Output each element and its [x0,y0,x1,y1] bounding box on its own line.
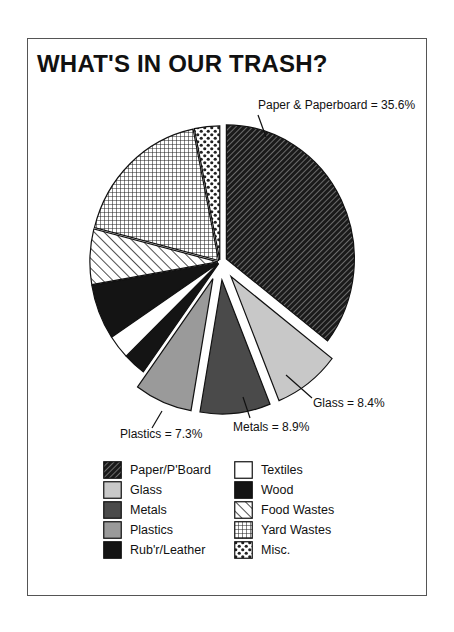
legend-swatch-yard-wastes [234,521,253,539]
legend-item-food-wastes: Food Wastes [234,501,334,519]
legend-item-yard-wastes: Yard Wastes [234,521,331,539]
legend-item-rub-r-leather: Rub'r/Leather [103,541,205,559]
legend-label: Misc. [261,543,290,557]
legend-label: Textiles [261,463,303,477]
legend-label: Yard Wastes [261,523,331,537]
legend-item-misc: Misc. [234,541,290,559]
legend-swatch-paper-p-board [103,461,122,479]
legend-swatch-textiles [234,461,253,479]
legend-label: Rub'r/Leather [130,543,205,557]
legend-label: Metals [130,503,167,517]
data-label-paper-p-board: Paper & Paperboard = 35.6% [258,98,415,112]
data-label-plastics: Plastics = 7.3% [120,427,203,441]
legend-swatch-plastics [103,521,122,539]
legend-item-textiles: Textiles [234,461,303,479]
legend-swatch-glass [103,481,122,499]
legend-item-plastics: Plastics [103,521,173,539]
legend-item-paper-p-board: Paper/P'Board [103,461,211,479]
leader-line-plastics [152,411,162,428]
data-label-metals: Metals = 8.9% [233,420,310,434]
legend-label: Plastics [130,523,173,537]
legend-label: Paper/P'Board [130,463,211,477]
legend-label: Food Wastes [261,503,334,517]
legend-label: Wood [261,483,293,497]
data-label-glass: Glass = 8.4% [313,396,385,410]
legend-swatch-rub-r-leather [103,541,122,559]
legend: Paper/P'BoardGlassMetalsPlasticsRub'r/Le… [103,461,363,565]
legend-label: Glass [130,483,162,497]
legend-swatch-metals [103,501,122,519]
legend-item-wood: Wood [234,481,293,499]
legend-item-metals: Metals [103,501,167,519]
legend-swatch-food-wastes [234,501,253,519]
legend-swatch-wood [234,481,253,499]
legend-item-glass: Glass [103,481,162,499]
legend-swatch-misc [234,541,253,559]
